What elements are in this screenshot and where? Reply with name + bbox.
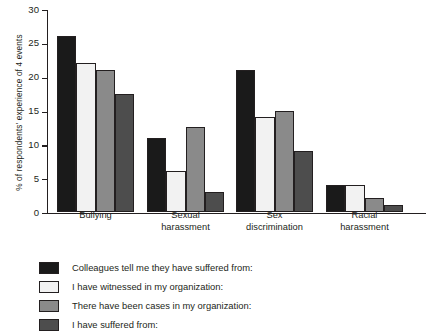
x-axis-category-label-line: Racial [300, 210, 429, 222]
legend-item: Colleagues tell me they have suffered fr… [39, 258, 419, 277]
y-axis-tick-mark [42, 112, 48, 113]
y-axis-title: % of respondents' experience of 4 events [15, 5, 24, 220]
legend-item: I have suffered from: [39, 315, 419, 334]
legend-swatch [39, 300, 59, 312]
legend-label: I have suffered from: [72, 319, 158, 330]
legend-label: I have witnessed in my organization: [72, 281, 223, 292]
legend-item: There have been cases in my organization… [39, 296, 419, 315]
bar [326, 185, 345, 212]
legend-item: I have witnessed in my organization: [39, 277, 419, 296]
bar [345, 185, 364, 212]
y-axis-tick-label: 10 [28, 139, 39, 150]
chart-legend: Colleagues tell me they have suffered fr… [39, 258, 419, 334]
bar [147, 138, 166, 212]
bar [166, 171, 185, 212]
bar [57, 36, 76, 212]
bar-group [147, 9, 224, 212]
legend-label: There have been cases in my organization… [72, 300, 251, 311]
y-axis-tick-label: 15 [28, 105, 39, 116]
bar [275, 111, 294, 213]
bar [115, 94, 134, 212]
y-axis-tick-mark [42, 78, 48, 79]
legend-swatch [39, 319, 59, 331]
y-axis-tick-mark [42, 10, 48, 11]
y-axis-tick-mark [42, 44, 48, 45]
bar [96, 70, 115, 212]
x-axis-category-label: Racialharassment [300, 210, 429, 233]
x-axis-category-label-line: harassment [300, 222, 429, 234]
y-axis-tick-mark [42, 179, 48, 180]
y-axis-tick-label: 5 [34, 173, 39, 184]
bar-group [236, 9, 313, 212]
legend-label: Colleagues tell me they have suffered fr… [72, 262, 253, 273]
legend-swatch [39, 262, 59, 274]
y-axis-tick-mark [42, 145, 48, 146]
bar [76, 63, 95, 212]
bar [205, 192, 224, 212]
bar [186, 127, 205, 212]
bar [294, 151, 313, 212]
bar [255, 117, 274, 212]
legend-swatch [39, 281, 59, 293]
bar-group [57, 9, 134, 212]
bar-chart-figure: % of respondents' experience of 4 events… [0, 0, 432, 336]
y-axis-tick-label: 25 [28, 37, 39, 48]
plot-area: 051015202530 [47, 10, 426, 213]
bar-group [326, 9, 403, 212]
bar [236, 70, 255, 212]
y-axis-tick-label: 20 [28, 71, 39, 82]
y-axis-tick-label: 30 [28, 4, 39, 15]
